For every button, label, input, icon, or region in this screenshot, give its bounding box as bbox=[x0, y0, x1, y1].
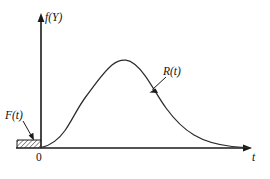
unreliability-hatched-region bbox=[17, 140, 41, 148]
origin-label: 0 bbox=[36, 152, 42, 164]
y-axis-label: f(Y) bbox=[45, 12, 62, 24]
reliability-label: R(t) bbox=[163, 66, 181, 78]
hatch-fill-rect bbox=[17, 140, 41, 148]
y-axis-arrowhead bbox=[38, 13, 45, 22]
failure-density-curve bbox=[41, 60, 250, 148]
x-axis-label: t bbox=[252, 152, 255, 164]
unreliability-label: F(t) bbox=[5, 110, 23, 122]
failure-leader-arrow bbox=[23, 121, 34, 141]
figure-canvas: f(Y) t 0 F(t) R(t) bbox=[0, 0, 270, 179]
